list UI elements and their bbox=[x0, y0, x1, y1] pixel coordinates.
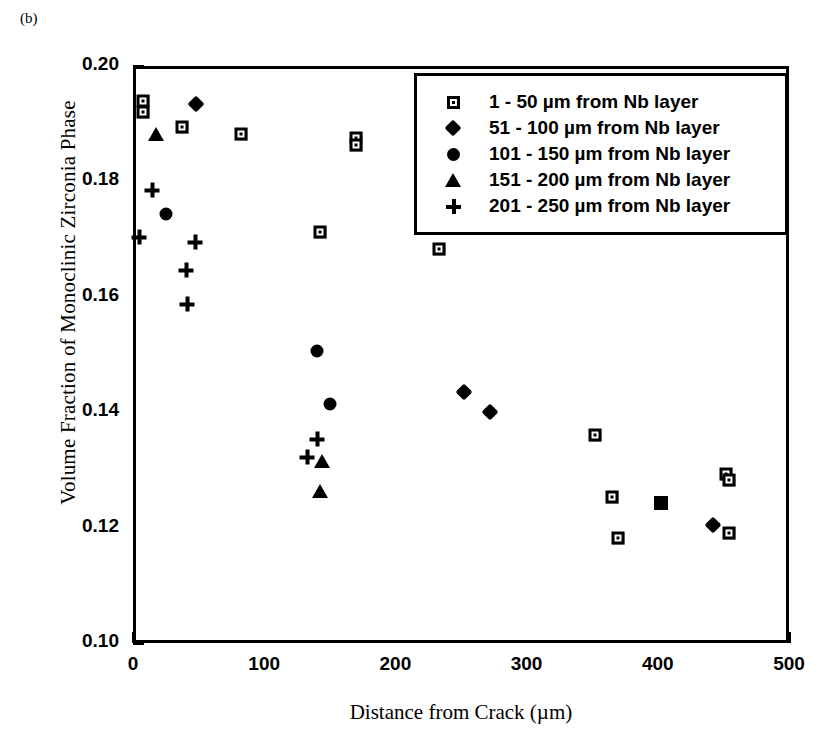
data-point bbox=[148, 127, 164, 141]
legend-item: 101 - 150 µm from Nb layer bbox=[417, 141, 785, 167]
legend-item: 201 - 250 µm from Nb layer bbox=[417, 193, 785, 219]
chart-legend: 1 - 50 µm from Nb layer51 - 100 µm from … bbox=[414, 73, 788, 235]
data-point bbox=[131, 230, 146, 245]
data-point bbox=[705, 516, 722, 533]
x-tick-label: 0 bbox=[93, 653, 173, 675]
legend-label: 1 - 50 µm from Nb layer bbox=[489, 91, 698, 113]
legend-symbol bbox=[417, 196, 489, 216]
data-point bbox=[180, 297, 195, 312]
y-tick-label: 0.14 bbox=[39, 399, 119, 421]
legend-marker-plus bbox=[446, 199, 461, 214]
data-point bbox=[160, 208, 173, 221]
y-tick-label: 0.18 bbox=[39, 168, 119, 190]
legend-marker-filled-diamond bbox=[445, 120, 462, 137]
data-point bbox=[175, 120, 188, 133]
legend-label: 51 - 100 µm from Nb layer bbox=[489, 117, 720, 139]
data-point bbox=[654, 496, 668, 510]
x-tick-label: 100 bbox=[224, 653, 304, 675]
data-point bbox=[314, 454, 330, 468]
x-tick-label: 400 bbox=[618, 653, 698, 675]
legend-marker-filled-circle bbox=[447, 148, 460, 161]
x-tick-label: 300 bbox=[487, 653, 567, 675]
data-point bbox=[482, 404, 499, 421]
legend-label: 201 - 250 µm from Nb layer bbox=[489, 195, 730, 217]
data-point bbox=[313, 225, 326, 238]
x-tick-label: 200 bbox=[355, 653, 435, 675]
data-point bbox=[311, 344, 324, 357]
legend-symbol bbox=[417, 144, 489, 164]
y-tick-label: 0.10 bbox=[39, 630, 119, 652]
x-tick-label: 500 bbox=[749, 653, 829, 675]
legend-marker-filled-triangle bbox=[445, 173, 461, 187]
data-point bbox=[611, 531, 624, 544]
data-point bbox=[188, 95, 205, 112]
legend-item: 1 - 50 µm from Nb layer bbox=[417, 89, 785, 115]
data-point bbox=[589, 429, 602, 442]
y-tick-label: 0.16 bbox=[39, 284, 119, 306]
data-point bbox=[188, 235, 203, 250]
data-point bbox=[723, 527, 736, 540]
legend-marker-open-square bbox=[447, 96, 460, 109]
data-point bbox=[606, 491, 619, 504]
data-point bbox=[433, 243, 446, 256]
data-point bbox=[350, 139, 363, 152]
data-point bbox=[299, 449, 314, 464]
data-point bbox=[136, 106, 149, 119]
legend-label: 101 - 150 µm from Nb layer bbox=[489, 143, 730, 165]
legend-item: 51 - 100 µm from Nb layer bbox=[417, 115, 785, 141]
data-point bbox=[723, 473, 736, 486]
legend-symbol bbox=[417, 118, 489, 138]
y-tick-label: 0.20 bbox=[39, 53, 119, 75]
data-point bbox=[312, 484, 328, 498]
x-axis-label: Distance from Crack (µm) bbox=[133, 700, 789, 725]
legend-label: 151 - 200 µm from Nb layer bbox=[489, 169, 730, 191]
data-point bbox=[456, 384, 473, 401]
scatter-chart: Volume Fraction of Monoclinic Zirconia P… bbox=[0, 0, 832, 748]
legend-symbol bbox=[417, 92, 489, 112]
data-point bbox=[144, 183, 159, 198]
data-point bbox=[310, 432, 325, 447]
data-point bbox=[178, 262, 193, 277]
y-tick-label: 0.12 bbox=[39, 515, 119, 537]
legend-symbol bbox=[417, 170, 489, 190]
data-point bbox=[234, 127, 247, 140]
data-point bbox=[324, 397, 337, 410]
legend-item: 151 - 200 µm from Nb layer bbox=[417, 167, 785, 193]
